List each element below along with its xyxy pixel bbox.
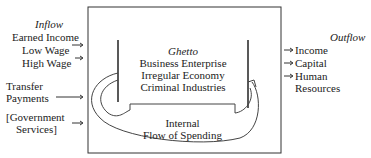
human-label-2: Resources: [295, 82, 340, 94]
capital-label: Capital: [295, 57, 327, 69]
ghetto-title: Ghetto: [118, 45, 248, 57]
outflow-arrows: [284, 48, 293, 78]
government-label-2: Services]: [16, 123, 57, 135]
earned-income-label: Earned Income: [12, 31, 79, 43]
income-label: Income: [295, 44, 328, 56]
human-label-1: Human: [295, 70, 327, 82]
transfer-label-2: Payments: [6, 92, 49, 104]
ghetto-line-3: Criminal Industries: [118, 81, 248, 93]
ghetto-line-2: Irregular Economy: [118, 69, 248, 81]
ghetto-line-1: Business Enterprise: [118, 57, 248, 69]
outflow-title: Outflow: [330, 31, 365, 43]
internal-line-2: Flow of Spending: [130, 129, 235, 141]
government-label-1: [Government: [6, 111, 65, 123]
low-wage-label: Low Wage: [22, 44, 69, 56]
inflow-title: Inflow: [35, 18, 63, 30]
transfer-label-1: Transfer: [6, 80, 43, 92]
internal-line-1: Internal: [130, 117, 235, 129]
high-wage-label: High Wage: [22, 57, 71, 69]
